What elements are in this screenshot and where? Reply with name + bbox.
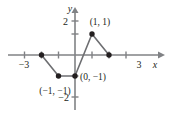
x-axis-label: x xyxy=(152,59,158,70)
annotation-point-0--1: (0, −1) xyxy=(80,72,106,83)
coordinate-plane-chart: y x −3 3 2 −2 (1, 1) (0, −1) (−1, −1) xyxy=(0,0,169,117)
x-tick-label--3: −3 xyxy=(19,59,30,70)
data-point--1--1 xyxy=(56,73,61,78)
y-axis-arrow-icon xyxy=(72,7,79,13)
y-axis xyxy=(72,7,79,110)
x-axis xyxy=(8,52,165,59)
data-point-1-1 xyxy=(89,31,94,36)
y-axis-label: y xyxy=(67,3,73,14)
data-point--2-0 xyxy=(39,52,44,57)
y-tick-label-2: 2 xyxy=(63,16,68,27)
annotation-point--1--1: (−1, −1) xyxy=(39,86,70,97)
data-point-2-0 xyxy=(106,52,111,57)
annotation-point-1-1: (1, 1) xyxy=(90,17,111,28)
x-axis-arrow-icon xyxy=(158,52,165,59)
graph-figure: y x −3 3 2 −2 (1, 1) (0, −1) (−1, −1) xyxy=(0,0,169,117)
data-point-0--1 xyxy=(72,73,77,78)
x-tick-label-3: 3 xyxy=(137,59,142,70)
